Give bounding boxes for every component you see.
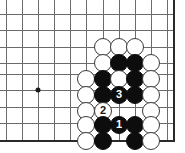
go-board-diagram: 321 bbox=[0, 0, 185, 153]
grid-line-vertical-3 bbox=[54, 0, 55, 140]
move-number-label: 2 bbox=[100, 105, 106, 116]
grid-line-vertical-4 bbox=[70, 0, 71, 140]
stone-white[interactable] bbox=[142, 132, 160, 150]
grid-line-vertical-10 bbox=[167, 0, 168, 140]
move-number-label: 3 bbox=[116, 89, 122, 100]
grid-line-vertical-1 bbox=[22, 0, 23, 140]
grid-line-vertical-2 bbox=[38, 0, 39, 140]
grid-line-vertical-0 bbox=[6, 0, 7, 140]
move-number-label: 1 bbox=[116, 119, 122, 130]
hoshi-left-icon bbox=[36, 88, 41, 93]
stone-black[interactable] bbox=[94, 132, 112, 150]
grid-line-horizontal-1 bbox=[0, 30, 173, 31]
grid-line-horizontal-0 bbox=[0, 14, 173, 15]
grid-line-horizontal-2 bbox=[0, 47, 173, 48]
stone-white[interactable] bbox=[77, 132, 95, 150]
board-edge-right bbox=[173, 0, 175, 142]
